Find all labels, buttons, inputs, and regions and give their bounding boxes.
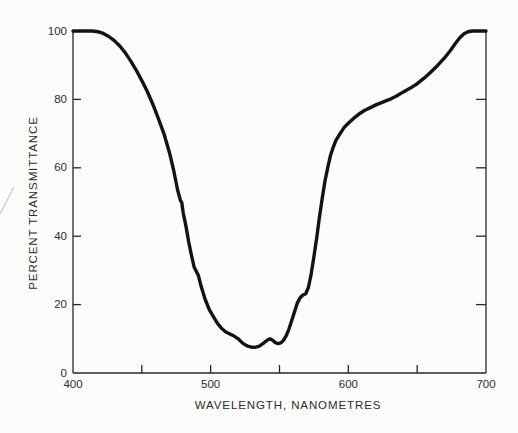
x-tick-label: 400: [53, 379, 93, 391]
x-tick-label: 600: [328, 379, 368, 391]
x-axis-title: WAVELENGTH, NANOMETRES: [195, 399, 382, 411]
y-tick-label: 80: [39, 94, 67, 106]
y-tick-label: 100: [39, 26, 67, 38]
y-tick-label: 40: [39, 231, 67, 243]
y-axis-title: PERCENT TRANSMITTANCE: [27, 116, 39, 290]
y-tick-label: 20: [39, 299, 67, 311]
scan-artifact-line: [0, 187, 14, 214]
transmittance-curve: [73, 31, 486, 347]
chart-canvas: [0, 0, 518, 433]
x-tick-label: 500: [191, 379, 231, 391]
spectral-transmittance-figure: PERCENT TRANSMITTANCE WAVELENGTH, NANOME…: [0, 0, 518, 433]
x-tick-label: 700: [466, 379, 506, 391]
y-tick-label: 60: [39, 162, 67, 174]
